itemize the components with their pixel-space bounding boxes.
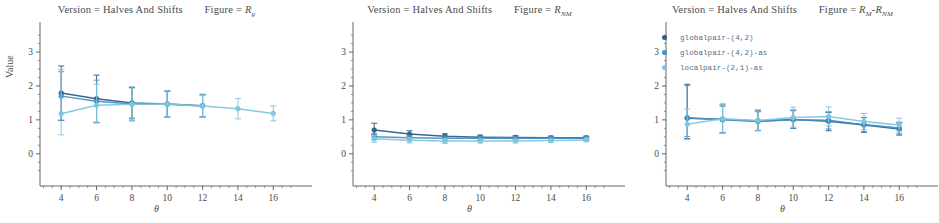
svg-text:16: 16 [582, 193, 592, 203]
svg-text:12: 12 [198, 193, 208, 203]
svg-text:14: 14 [233, 193, 243, 203]
svg-text:8: 8 [130, 193, 135, 203]
legend-item-label: globalpair-(4,2)-as [680, 49, 767, 57]
svg-text:12: 12 [511, 193, 521, 203]
plot-area-rg: 012346810121416 [0, 0, 313, 223]
chart-panel-rm-rnm: Version = Halves And Shifts Figure = RM-… [626, 0, 939, 223]
svg-text:4: 4 [59, 193, 64, 203]
svg-text:14: 14 [546, 193, 556, 203]
svg-text:14: 14 [859, 193, 869, 203]
legend-item[interactable]: localpair-(2,1)-as [662, 60, 767, 75]
svg-text:3: 3 [341, 47, 346, 57]
svg-text:2: 2 [654, 81, 659, 91]
svg-text:8: 8 [443, 193, 448, 203]
svg-text:16: 16 [269, 193, 279, 203]
legend-marker-icon [662, 65, 667, 70]
svg-text:1: 1 [28, 115, 33, 125]
svg-text:3: 3 [28, 47, 33, 57]
svg-text:4: 4 [685, 193, 690, 203]
svg-text:1: 1 [654, 115, 659, 125]
chart-legend: globalpair-(4,2) globalpair-(4,2)-as loc… [662, 30, 767, 75]
legend-item[interactable]: globalpair-(4,2)-as [662, 45, 767, 60]
chart-panel-rg: Version = Halves And Shifts Figure = Rg … [0, 0, 313, 223]
legend-item-label: globalpair-(4,2) [680, 34, 754, 42]
legend-marker-icon [662, 50, 667, 55]
legend-item[interactable]: globalpair-(4,2) [662, 30, 767, 45]
faceted-chart-figure: Version = Halves And Shifts Figure = Rg … [0, 0, 939, 223]
legend-item-label: localpair-(2,1)-as [680, 64, 763, 72]
svg-text:0: 0 [28, 149, 33, 159]
plot-area-rnm: 012346810121416 [313, 0, 626, 223]
svg-text:2: 2 [28, 81, 33, 91]
svg-text:1: 1 [341, 115, 346, 125]
svg-text:6: 6 [407, 193, 412, 203]
svg-text:10: 10 [475, 193, 485, 203]
legend-marker-icon [662, 35, 667, 40]
x-axis-label: θ [313, 203, 626, 214]
svg-text:0: 0 [341, 149, 346, 159]
svg-text:0: 0 [654, 149, 659, 159]
svg-text:6: 6 [720, 193, 725, 203]
x-axis-label: θ [626, 203, 939, 214]
svg-text:6: 6 [94, 193, 99, 203]
svg-text:10: 10 [162, 193, 172, 203]
svg-text:2: 2 [341, 81, 346, 91]
svg-text:10: 10 [788, 193, 798, 203]
svg-text:16: 16 [895, 193, 905, 203]
svg-text:8: 8 [756, 193, 761, 203]
x-axis-label: θ [0, 203, 313, 214]
svg-text:12: 12 [824, 193, 834, 203]
svg-text:4: 4 [372, 193, 377, 203]
svg-text:3: 3 [654, 47, 659, 57]
chart-panel-rnm: Version = Halves And Shifts Figure = RNM… [313, 0, 626, 223]
